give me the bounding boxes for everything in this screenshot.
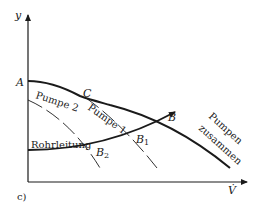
point-b-label: B bbox=[167, 111, 176, 124]
panel-label: c) bbox=[17, 191, 27, 202]
point-b1-label: B1 bbox=[135, 133, 149, 147]
combined-pumps-curve bbox=[28, 81, 230, 168]
point-c-label: C bbox=[83, 87, 92, 100]
pipe-label: Rohrleitung bbox=[31, 139, 92, 150]
y-axis-label: y bbox=[14, 9, 22, 22]
x-axis-label: V̇ bbox=[228, 184, 237, 197]
point-b2-label: B2 bbox=[95, 146, 109, 160]
pump-characteristic-diagram: y V̇ A C B B1 B2 Pumpe 2 Pumpe 1 Rohrlei… bbox=[0, 0, 262, 213]
point-a-label: A bbox=[15, 76, 24, 89]
pump1-label: Pumpe 1 bbox=[86, 102, 129, 137]
